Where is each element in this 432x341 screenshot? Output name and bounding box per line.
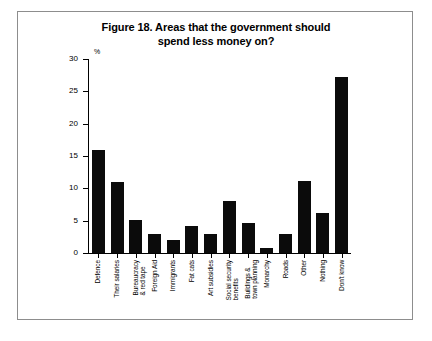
x-axis-tick <box>117 254 118 258</box>
bar-slot <box>316 59 329 253</box>
bar <box>242 223 255 253</box>
bar-slot <box>111 59 124 253</box>
x-axis-category-label: Social security benefits <box>225 260 239 300</box>
bar <box>279 234 292 253</box>
bar <box>260 248 273 253</box>
x-axis-category-label: Nothing <box>319 260 326 282</box>
bar-slot <box>204 59 217 253</box>
x-axis-labels: DefenceTheir salariesBureaucracy & red t… <box>89 260 359 320</box>
y-axis-tick-label: 0 <box>38 249 78 257</box>
bar-slot <box>148 59 161 253</box>
x-axis-category-label: Bureaucracy & red tape <box>132 260 146 295</box>
bar-slot <box>242 59 255 253</box>
bar-slot <box>298 59 311 253</box>
bar-slot <box>223 59 236 253</box>
bar-slot <box>260 59 273 253</box>
figure-frame: Figure 18. Areas that the government sho… <box>17 11 413 320</box>
x-axis-category-label: Art subsidies <box>207 260 214 296</box>
bar-slot <box>167 59 180 253</box>
y-axis-tick-label: 10 <box>38 184 78 192</box>
bar <box>129 220 142 253</box>
x-axis-tick <box>248 254 249 258</box>
bar-series <box>89 59 351 253</box>
x-axis-category-label: Other <box>300 260 307 276</box>
y-axis-tick-label: 20 <box>38 120 78 128</box>
bar <box>223 201 236 253</box>
y-axis-tick <box>83 91 88 92</box>
bar <box>316 213 329 253</box>
x-axis-category-label: Don't know <box>338 260 345 291</box>
bar <box>111 182 124 253</box>
y-axis-tick <box>83 156 88 157</box>
bar-slot <box>185 59 198 253</box>
x-axis-category-label: Buildings & town planning <box>244 260 258 299</box>
x-axis-tick <box>267 254 268 258</box>
x-axis-tick <box>155 254 156 258</box>
y-axis-tick <box>83 59 88 60</box>
x-axis-category-label: Immigrants <box>169 260 176 291</box>
plot-area: 051015202530 DefenceTheir salariesBureau… <box>18 12 414 321</box>
bar <box>335 77 348 253</box>
x-axis-tick <box>211 254 212 258</box>
bar-slot <box>129 59 142 253</box>
x-axis-tick <box>98 254 99 258</box>
bar-slot <box>335 59 348 253</box>
bar-slot <box>279 59 292 253</box>
x-axis-line <box>88 253 351 254</box>
y-axis-tick-label: 5 <box>38 217 78 225</box>
bar <box>167 240 180 253</box>
bar-slot <box>92 59 105 253</box>
bar <box>185 226 198 253</box>
x-axis-tick <box>304 254 305 258</box>
y-axis-tick <box>83 188 88 189</box>
x-axis-tick <box>192 254 193 258</box>
x-axis-category-label: Defence <box>94 260 101 284</box>
y-axis-tick <box>83 221 88 222</box>
x-axis-tick <box>286 254 287 258</box>
y-axis-tick-label: 15 <box>38 152 78 160</box>
x-axis-tick <box>323 254 324 258</box>
x-axis-category-label: Fat cats <box>188 260 195 282</box>
x-axis-tick <box>229 254 230 258</box>
y-axis-tick-label: 25 <box>38 87 78 95</box>
y-axis-tick <box>83 253 88 254</box>
bar <box>204 234 217 253</box>
x-axis-tick <box>173 254 174 258</box>
x-axis-category-label: Roads <box>282 260 289 278</box>
bar <box>298 181 311 253</box>
x-axis-tick <box>136 254 137 258</box>
y-axis-tick <box>83 124 88 125</box>
y-axis-tick-label: 30 <box>38 55 78 63</box>
x-axis-category-label: Foreign Aid <box>151 260 158 292</box>
bar <box>148 234 161 253</box>
x-axis-category-label: Their salaries <box>113 260 120 298</box>
bar <box>92 150 105 253</box>
x-axis-category-label: Monarchy <box>263 260 270 288</box>
x-axis-tick <box>342 254 343 258</box>
